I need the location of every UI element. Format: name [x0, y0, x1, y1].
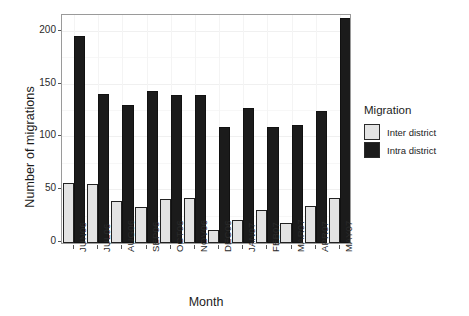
y-tick-mark [58, 135, 61, 136]
x-tick-mark [266, 245, 267, 249]
bar-may07-intra [340, 18, 351, 243]
x-tick-mark [194, 245, 195, 249]
bar-jun06-intra [74, 36, 85, 243]
plot-panel [61, 14, 351, 244]
y-tick-label: 150 [26, 78, 56, 88]
x-tick-mark [242, 245, 243, 249]
x-tick-mark [291, 245, 292, 249]
x-tick-mark [218, 245, 219, 249]
legend: Migration Inter districtIntra district [364, 104, 469, 159]
legend-label: Intra district [387, 145, 436, 156]
legend-entries: Inter districtIntra district [364, 123, 469, 159]
y-tick-mark [58, 30, 61, 31]
legend-label: Inter district [387, 127, 436, 138]
x-tick-mark [339, 245, 340, 249]
x-tick-label-oct06: OCT06 [174, 220, 185, 252]
x-axis-title: Month [61, 295, 351, 309]
x-tick-label-nov06: NOV06 [198, 220, 209, 252]
x-tick-label-feb07: FEB07 [270, 222, 281, 252]
chart-figure: Number of migrations 050100150200 Month … [0, 0, 469, 316]
x-tick-mark [121, 245, 122, 249]
x-tick-label-aug06: AUG06 [125, 220, 136, 252]
y-tick-label: 200 [26, 25, 56, 35]
bar-jul06-intra [98, 94, 109, 243]
y-tick-mark [58, 241, 61, 242]
y-tick-label: 100 [26, 130, 56, 140]
x-tick-label-jul06: JUL06 [101, 224, 112, 252]
bar-aug06-inter [111, 201, 122, 243]
x-tick-label-jan07: JAN07 [246, 222, 257, 252]
bar-nov06-inter [184, 198, 195, 243]
y-tick-label: 50 [26, 183, 56, 193]
x-tick-mark [73, 245, 74, 249]
y-gridline [62, 84, 350, 85]
x-tick-label-mar07: MAR07 [295, 219, 306, 252]
bar-jul06-inter [87, 184, 98, 243]
y-tick-mark [58, 83, 61, 84]
x-tick-mark [97, 245, 98, 249]
x-tick-label-jun06: JUN06 [77, 222, 88, 252]
legend-entry: Intra district [364, 141, 469, 159]
x-tick-mark [315, 245, 316, 249]
bar-mar07-inter [280, 223, 291, 243]
y-tick-mark [58, 188, 61, 189]
legend-entry: Inter district [364, 123, 469, 141]
x-tick-mark [170, 245, 171, 249]
y-tick-label: 0 [26, 236, 56, 246]
x-tick-label-apr07: APR07 [319, 221, 330, 252]
bar-apr07-inter [305, 206, 316, 243]
bar-sep06-inter [135, 207, 146, 243]
legend-swatch-icon [364, 124, 380, 140]
x-tick-label-dec06: DEC06 [222, 220, 233, 252]
bar-sep06-intra [147, 91, 158, 243]
bar-feb07-inter [256, 210, 267, 243]
x-tick-mark [146, 245, 147, 249]
bar-may07-inter [329, 198, 340, 243]
y-axis-tick-labels: 050100150200 [26, 0, 56, 316]
y-gridline-minor [62, 57, 350, 58]
bar-dec06-inter [208, 230, 219, 243]
bar-oct06-inter [160, 199, 171, 243]
y-gridline [62, 31, 350, 32]
legend-swatch-icon [364, 142, 380, 158]
x-tick-label-sep06: SEP06 [150, 221, 161, 252]
bar-jun06-inter [63, 183, 74, 243]
bar-jan07-inter [232, 220, 243, 243]
x-tick-label-may07: MAY07 [343, 221, 354, 252]
legend-title: Migration [364, 104, 469, 116]
